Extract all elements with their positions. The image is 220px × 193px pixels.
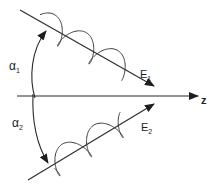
beam-1-direction-arrow [20, 10, 154, 86]
angle-alpha2-arc-arrow [33, 94, 48, 163]
field-label-e2: E2 [141, 121, 152, 135]
z-axis-label: z [201, 94, 207, 106]
angle-alpha1-label: α1 [9, 59, 20, 74]
angle-alpha1-arc-arrow [32, 31, 46, 98]
beam-2-wave [55, 112, 124, 176]
angle-alpha2-label: α2 [12, 116, 23, 131]
beam-2: E2 [28, 104, 154, 180]
polarization-diagram: z E1 E2 α1 α2 [0, 0, 220, 193]
field-label-e1: E1 [140, 68, 151, 82]
beam-2-direction-arrow [28, 104, 154, 180]
beam-1: E1 [20, 10, 154, 86]
beam-1-wave [40, 13, 125, 81]
